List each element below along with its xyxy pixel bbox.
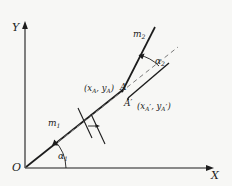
y-axis-label: Y	[12, 22, 19, 33]
origin-label: O	[12, 162, 21, 173]
x-axis	[25, 165, 214, 171]
coord-A-mid: , y	[96, 83, 106, 93]
point-label-A-prime: A′	[124, 99, 132, 108]
y-axis	[22, 21, 28, 168]
coord-A-open: (x	[84, 83, 92, 93]
line-m1	[26, 89, 124, 167]
angle-label-alpha2-subscript: 2	[161, 60, 165, 67]
coord-Ap-open: (x	[137, 101, 145, 111]
line-label-m2: m2	[133, 30, 145, 40]
line-label-m1-base: m	[48, 118, 57, 128]
x-axis-label: X	[211, 170, 219, 181]
coord-Ap-close: )	[167, 101, 170, 111]
translation-arrow	[88, 124, 100, 128]
coordinate-label-A: (xA, yA)	[84, 84, 114, 94]
line-label-m1-subscript: 1	[57, 122, 61, 129]
angle-label-alpha1: α1	[58, 152, 68, 162]
coord-A-close: )	[111, 83, 114, 93]
geometry-figure: Y X O m1 m2 α1 α2 A A′ (xA, yA) (xA′, yA…	[0, 0, 232, 186]
coordinate-label-A-prime: (xA′, yA′)	[137, 102, 171, 112]
angle-label-alpha1-subscript: 1	[64, 155, 68, 162]
point-label-A-prime-mark: ′	[131, 98, 133, 108]
line-label-m2-base: m	[133, 29, 142, 39]
line-label-m1: m1	[48, 119, 60, 129]
angle-label-alpha2: α2	[155, 57, 165, 67]
figure-canvas	[0, 0, 232, 186]
tick-mark-parallel	[91, 114, 105, 144]
coord-Ap-mid: , y	[151, 101, 161, 111]
point-label-A: A	[120, 83, 127, 92]
line-label-m2-subscript: 2	[142, 33, 146, 40]
